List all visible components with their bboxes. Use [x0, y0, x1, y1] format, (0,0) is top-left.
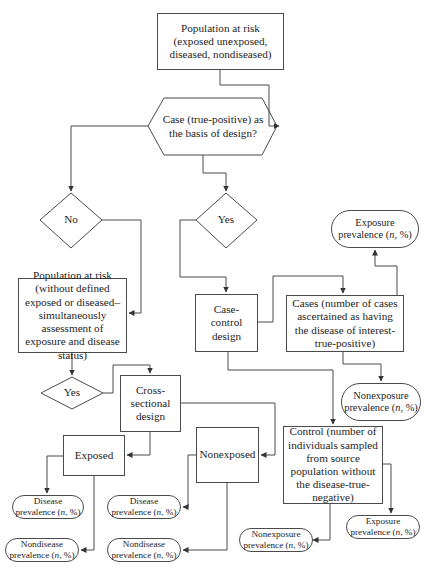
nonexposure-prevalence-cases-terminal: Nonexposureprevalence (n, %)	[341, 383, 421, 421]
control-box: Control (number of individuals sampled f…	[283, 426, 383, 504]
nonexposed-box: Nonexposed	[196, 427, 259, 483]
cross-sectional-design-box: Cross-sectional design	[120, 375, 181, 432]
yes-lower-label: Yes	[51, 384, 93, 402]
cases-box: Cases (number of cases ascertained as ha…	[286, 295, 404, 352]
exposure-prevalence-control-terminal: Exposureprevalence (n, %)	[346, 515, 420, 539]
case-decision-label: Case (true-positive) as the basis of des…	[160, 100, 266, 153]
case-control-design-box: Case-control design	[195, 294, 258, 352]
yes-upper-label: Yes	[205, 211, 247, 229]
population-without-defined-box: Population at risk (without defined expo…	[18, 278, 127, 353]
exposure-prevalence-cases-terminal: Exposureprevalence (n, %)	[331, 210, 419, 248]
disease-prevalence-exposed-terminal: Diseaseprevalence (n, %)	[12, 495, 84, 519]
nondisease-prevalence-exposed-terminal: Nondiseaseprevalence (n, %)	[5, 538, 79, 562]
nonexposure-prevalence-control-terminal: Nonexposureprevalence (n, %)	[239, 528, 313, 552]
exposed-box: Exposed	[63, 435, 125, 476]
no-label: No	[50, 211, 92, 229]
nondisease-prevalence-nonexposed-terminal: Nondiseaseprevalence (n, %)	[107, 538, 181, 562]
disease-prevalence-nonexposed-terminal: Diseaseprevalence (n, %)	[107, 495, 181, 519]
population-at-risk-text: Population at risk (exposed unexposed, d…	[162, 22, 279, 62]
population-at-risk-box: Population at risk (exposed unexposed, d…	[157, 13, 284, 70]
